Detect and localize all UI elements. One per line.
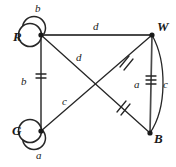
vertex-label-B: B xyxy=(154,132,163,145)
graph-figure: R W G B d b d c a c b a xyxy=(0,0,176,167)
edge-label-R-B: d xyxy=(76,52,82,63)
self-loop-label-R: b xyxy=(35,3,41,14)
edge-label-G-W: c xyxy=(62,96,67,107)
vertex-R-dot xyxy=(38,32,43,37)
vertex-label-R: R xyxy=(13,30,22,43)
self-loop-label-G: a xyxy=(36,150,42,161)
edge-label-R-G: b xyxy=(21,76,27,87)
vertex-label-W: W xyxy=(157,20,169,33)
vertex-B-dot xyxy=(147,130,152,135)
edge-label-W-B-curved: c xyxy=(163,79,168,90)
vertex-G-dot xyxy=(38,128,43,133)
vertex-label-G: G xyxy=(12,124,21,137)
vertex-G-circle xyxy=(19,120,42,143)
edge-label-R-W: d xyxy=(93,21,99,32)
edge-label-W-B-straight: a xyxy=(134,79,140,90)
vertex-W-dot xyxy=(149,32,154,37)
